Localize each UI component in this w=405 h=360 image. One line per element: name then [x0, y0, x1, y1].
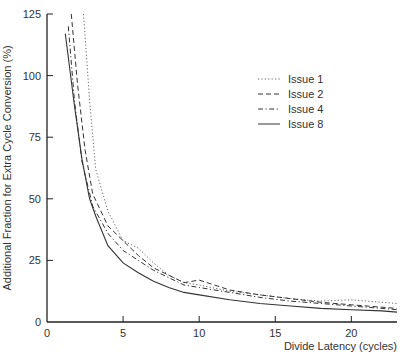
y-axis-title: Additional Fraction for Extra Cycle Conv… — [1, 45, 13, 290]
plot-series — [65, 14, 397, 312]
x-ticks: 05101520 — [44, 316, 358, 339]
x-tick-label: 5 — [120, 327, 126, 339]
legend-label: Issue 8 — [288, 118, 323, 130]
y-tick-label: 75 — [29, 131, 41, 143]
chart-canvas: 05101520 0255075100125 Divide Latency (c… — [0, 0, 405, 360]
y-tick-label: 25 — [29, 254, 41, 266]
axes: 05101520 0255075100125 Divide Latency (c… — [1, 8, 397, 352]
legend-label: Issue 4 — [288, 103, 323, 115]
x-tick-label: 10 — [193, 327, 205, 339]
legend-label: Issue 2 — [288, 88, 323, 100]
series-line-issue-2 — [71, 14, 397, 308]
y-tick-label: 50 — [29, 193, 41, 205]
x-tick-label: 20 — [345, 327, 357, 339]
series-line-issue-8 — [65, 34, 397, 312]
y-tick-label: 0 — [35, 316, 41, 328]
series-line-issue-4 — [68, 26, 397, 309]
x-axis-title: Divide Latency (cycles) — [284, 340, 397, 352]
y-tick-label: 125 — [23, 8, 41, 20]
x-tick-label: 0 — [44, 327, 50, 339]
legend-label: Issue 1 — [288, 73, 323, 85]
y-ticks: 0255075100125 — [23, 8, 53, 328]
x-tick-label: 15 — [269, 327, 281, 339]
series-line-issue-1 — [84, 14, 398, 304]
legend: Issue 1Issue 2Issue 4Issue 8 — [258, 73, 323, 130]
y-tick-label: 100 — [23, 70, 41, 82]
